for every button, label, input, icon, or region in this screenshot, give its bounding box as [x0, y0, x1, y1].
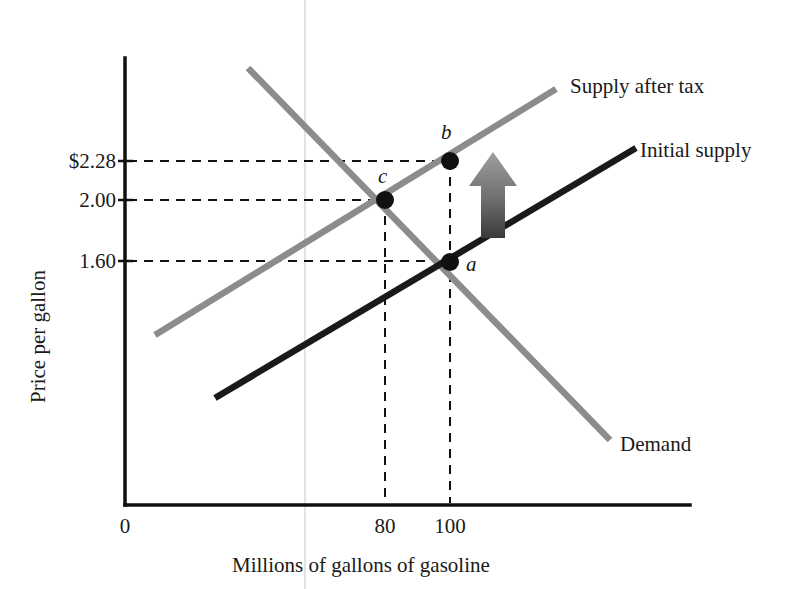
y-tick-label-200: 2.00	[44, 190, 116, 211]
point-marker-b	[441, 152, 459, 170]
y-tick-label-228: $2.28	[44, 151, 116, 172]
y-axis-title: Price per gallon	[28, 270, 49, 403]
x-tick-label-0: 0	[105, 516, 145, 537]
point-marker-a	[441, 253, 459, 271]
point-label-c: c	[378, 166, 387, 187]
x-tick-label-80: 80	[360, 516, 410, 537]
demand-label: Demand	[620, 434, 691, 455]
y-tick-label-160: 1.60	[44, 251, 116, 272]
initial-supply-label: Initial supply	[640, 140, 751, 161]
point-label-b: b	[441, 122, 452, 143]
supply-after-tax-label: Supply after tax	[570, 76, 704, 97]
x-axis-title: Millions of gallons of gasoline	[232, 555, 490, 576]
supply-demand-gasoline-tax-chart: $2.28 2.00 1.60 0 80 100 Millions of gal…	[0, 0, 786, 589]
initial-supply-curve	[215, 148, 636, 398]
point-marker-c	[376, 191, 394, 209]
point-label-a: a	[466, 254, 477, 275]
x-tick-label-100: 100	[420, 516, 480, 537]
demand-curve	[248, 68, 610, 440]
